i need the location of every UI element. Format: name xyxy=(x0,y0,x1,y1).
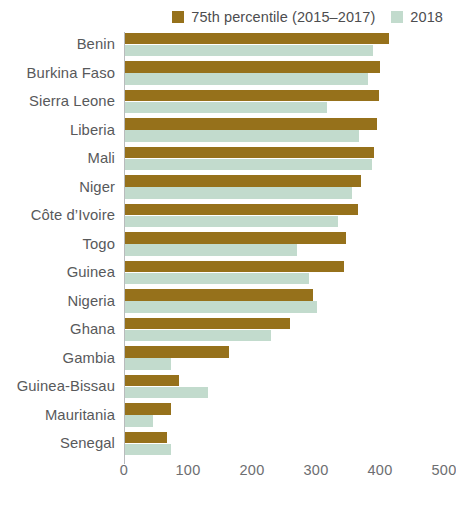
bar-p75[interactable] xyxy=(125,147,374,159)
bar-p75[interactable] xyxy=(125,318,290,330)
bar-p75[interactable] xyxy=(125,432,167,444)
category-label: Gambia xyxy=(0,344,115,373)
bar-row: Ghana xyxy=(0,315,447,344)
bar-row: Senegal xyxy=(0,429,447,458)
bar-row: Mali xyxy=(0,144,447,173)
category-label: Guinea-Bissau xyxy=(0,372,115,401)
bar-p75[interactable] xyxy=(125,61,380,73)
bar-2018[interactable] xyxy=(125,187,352,199)
bar-row: Benin xyxy=(0,30,447,59)
category-label: Nigeria xyxy=(0,287,115,316)
category-label: Benin xyxy=(0,30,115,59)
legend-label-2018: 2018 xyxy=(410,10,443,25)
category-label: Niger xyxy=(0,173,115,202)
bar-row: Mauritania xyxy=(0,401,447,430)
bar-2018[interactable] xyxy=(125,301,317,313)
x-tick-label: 500 xyxy=(432,462,456,478)
bar-row: Sierra Leone xyxy=(0,87,447,116)
bar-p75[interactable] xyxy=(125,175,361,187)
bar-2018[interactable] xyxy=(125,216,338,228)
bar-p75[interactable] xyxy=(125,232,346,244)
bar-2018[interactable] xyxy=(125,387,208,399)
bar-row: Guinea-Bissau xyxy=(0,372,447,401)
bar-p75[interactable] xyxy=(125,90,379,102)
bar-p75[interactable] xyxy=(125,118,377,130)
legend-item-p75[interactable]: 75th percentile (2015–2017) xyxy=(172,10,375,25)
bar-row: Niger xyxy=(0,173,447,202)
category-label: Sierra Leone xyxy=(0,87,115,116)
bar-2018[interactable] xyxy=(125,159,372,171)
category-label: Senegal xyxy=(0,429,115,458)
x-tick-label: 100 xyxy=(176,462,201,478)
category-label: Burkina Faso xyxy=(0,59,115,88)
bar-p75[interactable] xyxy=(125,375,179,387)
bar-p75[interactable] xyxy=(125,204,358,216)
plot-area: BeninBurkina FasoSierra LeoneLiberiaMali… xyxy=(0,30,447,466)
bar-2018[interactable] xyxy=(125,273,309,285)
bar-row: Nigeria xyxy=(0,287,447,316)
legend-item-2018[interactable]: 2018 xyxy=(391,10,443,25)
x-tick-label: 300 xyxy=(304,462,329,478)
x-tick-label: 200 xyxy=(240,462,265,478)
category-label: Togo xyxy=(0,230,115,259)
bar-2018[interactable] xyxy=(125,102,327,114)
category-label: Mauritania xyxy=(0,401,115,430)
bar-p75[interactable] xyxy=(125,346,229,358)
legend-label-p75: 75th percentile (2015–2017) xyxy=(191,10,375,25)
bar-2018[interactable] xyxy=(125,45,373,57)
bar-2018[interactable] xyxy=(125,415,153,427)
bar-p75[interactable] xyxy=(125,261,344,273)
category-label: Ghana xyxy=(0,315,115,344)
bar-row: Liberia xyxy=(0,116,447,145)
bar-row: Gambia xyxy=(0,344,447,373)
bar-p75[interactable] xyxy=(125,403,171,415)
category-label: Mali xyxy=(0,144,115,173)
bar-rows: BeninBurkina FasoSierra LeoneLiberiaMali… xyxy=(0,30,447,466)
category-label: Côte d’Ivoire xyxy=(0,201,115,230)
bar-row: Burkina Faso xyxy=(0,59,447,88)
category-label: Liberia xyxy=(0,116,115,145)
bar-2018[interactable] xyxy=(125,73,368,85)
x-tick-label: 400 xyxy=(368,462,393,478)
bar-p75[interactable] xyxy=(125,33,389,45)
x-axis: 0100200300400500 xyxy=(0,462,447,486)
bar-2018[interactable] xyxy=(125,444,171,456)
chart-legend: 75th percentile (2015–2017) 2018 xyxy=(0,6,447,28)
bar-row: Côte d’Ivoire xyxy=(0,201,447,230)
bar-row: Togo xyxy=(0,230,447,259)
category-label: Guinea xyxy=(0,258,115,287)
bar-2018[interactable] xyxy=(125,358,171,370)
bar-2018[interactable] xyxy=(125,330,271,342)
bar-2018[interactable] xyxy=(125,130,359,142)
legend-swatch-p75 xyxy=(172,11,184,23)
bar-row: Guinea xyxy=(0,258,447,287)
bar-2018[interactable] xyxy=(125,244,297,256)
x-tick-label: 0 xyxy=(120,462,128,478)
bar-p75[interactable] xyxy=(125,289,313,301)
legend-swatch-2018 xyxy=(391,11,403,23)
